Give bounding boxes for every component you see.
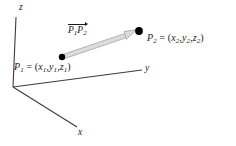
vector-label-inner: P1P2	[68, 24, 87, 36]
p2-close-paren: )	[200, 32, 203, 43]
vector-diagram-figure: z y x P1 = (x1,y1,z1) P2 = (x2,y2,z2) P1…	[0, 0, 236, 146]
p1-subscript: 1	[20, 66, 24, 74]
point-p1-label: P1 = (x1,y1,z1)	[14, 62, 71, 72]
point-p1-dot	[59, 54, 65, 60]
y-axis-line	[13, 70, 142, 87]
vector-arrowhead	[124, 30, 137, 40]
x-axis-label: x	[78, 128, 82, 138]
p2-subscript: 2	[153, 37, 157, 45]
y-axis-label: y	[145, 64, 149, 74]
p2-equals: = (	[157, 32, 171, 43]
p1-close-paren: )	[67, 61, 70, 72]
vector-band	[62, 34, 126, 59]
p2-coord-z-sub: 2	[197, 37, 201, 45]
vector-p-first-sub: 1	[74, 29, 78, 37]
vector-p-second-sub: 2	[83, 29, 87, 37]
p2-coord-x-sub: 2	[176, 37, 180, 45]
p2-coord-y-sub: 2	[187, 37, 191, 45]
point-p2-dot	[135, 27, 143, 35]
overarrow-head-icon	[85, 22, 88, 26]
p1-coord-y-sub: 1	[54, 66, 58, 74]
p1-coord-x-sub: 1	[43, 66, 47, 74]
axes-and-vector-graphics	[0, 0, 236, 146]
vector-p-first: P	[68, 25, 74, 35]
point-p2-label: P2 = (x2,y2,z2)	[147, 33, 204, 43]
vector-label: P1P2	[68, 24, 87, 36]
p1-coord-y: y	[49, 61, 54, 72]
p2-coord-y: y	[182, 32, 187, 43]
z-axis-line	[13, 17, 16, 87]
x-axis-line	[13, 87, 77, 127]
z-axis-label: z	[19, 3, 23, 13]
p1-coord-z-sub: 1	[64, 66, 68, 74]
p1-equals: = (	[24, 61, 38, 72]
